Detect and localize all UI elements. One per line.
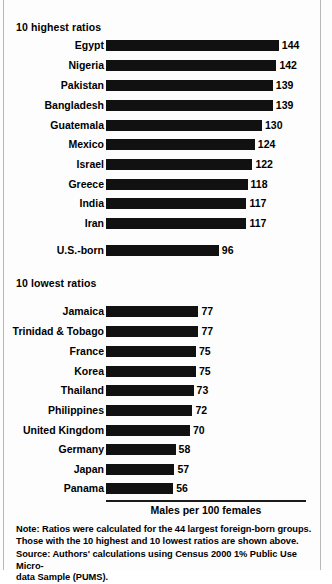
bar-value: 73 bbox=[197, 384, 209, 397]
x-axis-line bbox=[106, 500, 306, 502]
bar-label: France bbox=[70, 345, 104, 358]
bar-label: Jamaica bbox=[63, 305, 104, 318]
section-heading-highest: 10 highest ratios bbox=[16, 21, 101, 33]
bar-label: Panama bbox=[64, 482, 104, 495]
table-row: Nigeria 142 bbox=[0, 58, 332, 75]
bar-value: 144 bbox=[282, 39, 300, 52]
table-row: Philippines 72 bbox=[0, 403, 332, 420]
bar-mark bbox=[106, 80, 273, 91]
bar-value: 75 bbox=[199, 345, 211, 358]
bar-mark bbox=[106, 425, 190, 436]
bar-value: 118 bbox=[251, 178, 268, 191]
bar-mark bbox=[106, 179, 248, 190]
bar-mark bbox=[106, 483, 173, 494]
bar-mark bbox=[106, 40, 279, 51]
bar-value: 117 bbox=[249, 197, 266, 210]
table-row: Guatemala 130 bbox=[0, 118, 332, 135]
section-heading-lowest: 10 lowest ratios bbox=[16, 277, 96, 289]
bar-mark bbox=[106, 139, 255, 150]
table-row: Germany 58 bbox=[0, 442, 332, 459]
bar-value: 75 bbox=[199, 365, 211, 378]
chart-source-line-2: data Sample (PUMS). bbox=[16, 572, 312, 584]
bar-mark bbox=[106, 444, 176, 455]
bar-value: 57 bbox=[177, 463, 189, 476]
chart-note-line-2: Those with the 10 highest and 10 lowest … bbox=[16, 536, 312, 548]
bar-value: 124 bbox=[258, 138, 276, 151]
table-row: Japan 57 bbox=[0, 462, 332, 479]
bar-label: India bbox=[79, 197, 104, 210]
table-row: Panama 56 bbox=[0, 481, 332, 498]
table-row: France 75 bbox=[0, 344, 332, 361]
x-axis-label: Males per 100 females bbox=[106, 504, 306, 516]
bar-value: 130 bbox=[265, 119, 283, 132]
table-row: Mexico 124 bbox=[0, 137, 332, 154]
bar-value: 142 bbox=[279, 59, 297, 72]
table-row: United Kingdom 70 bbox=[0, 423, 332, 440]
bar-value: 77 bbox=[201, 325, 213, 338]
bar-label: Trinidad & Tobago bbox=[13, 325, 104, 338]
table-row: Egypt 144 bbox=[0, 38, 332, 55]
bar-label: Bangladesh bbox=[44, 99, 104, 112]
table-row: Greece 118 bbox=[0, 177, 332, 194]
bar-label: Nigeria bbox=[68, 59, 104, 72]
bar-mark bbox=[106, 159, 252, 170]
bar-mark bbox=[106, 120, 262, 131]
bar-label: U.S.-born bbox=[57, 244, 104, 257]
bar-mark bbox=[106, 346, 196, 357]
table-row: Trinidad & Tobago 77 bbox=[0, 324, 332, 341]
table-row: Thailand 73 bbox=[0, 383, 332, 400]
table-row: Korea 75 bbox=[0, 364, 332, 381]
bar-label: Egypt bbox=[75, 39, 104, 52]
chart-source-line-1: Source: Authors' calculations using Cens… bbox=[16, 549, 312, 572]
bar-mark bbox=[106, 306, 198, 317]
bar-label: Thailand bbox=[61, 384, 104, 397]
bar-label: United Kingdom bbox=[23, 424, 104, 437]
bar-mark bbox=[106, 245, 219, 256]
table-row-us-born: U.S.-born 96 bbox=[0, 243, 332, 260]
bar-label: Iran bbox=[85, 217, 104, 230]
bar-label: Greece bbox=[68, 178, 104, 191]
bar-mark bbox=[106, 198, 246, 209]
bar-mark bbox=[106, 366, 196, 377]
bar-value: 70 bbox=[193, 424, 205, 437]
bar-value: 58 bbox=[179, 443, 191, 456]
bar-mark bbox=[106, 326, 198, 337]
bar-value: 77 bbox=[201, 305, 213, 318]
bar-mark bbox=[106, 464, 174, 475]
chart-source: Source: Authors' calculations using Cens… bbox=[16, 549, 312, 584]
table-row: Jamaica 77 bbox=[0, 304, 332, 321]
bar-label: Japan bbox=[74, 463, 104, 476]
table-row: Pakistan 139 bbox=[0, 78, 332, 95]
bar-label: Pakistan bbox=[61, 79, 104, 92]
bar-value: 56 bbox=[176, 482, 188, 495]
bar-label: Philippines bbox=[48, 404, 104, 417]
bar-mark bbox=[106, 218, 246, 229]
bar-mark bbox=[106, 100, 273, 111]
bar-label: Mexico bbox=[68, 138, 104, 151]
table-row: Iran 117 bbox=[0, 216, 332, 233]
bar-mark bbox=[106, 405, 192, 416]
chart-note-line-1: Note: Ratios were calculated for the 44 … bbox=[16, 524, 312, 536]
bar-value: 96 bbox=[222, 244, 234, 257]
table-row: Israel 122 bbox=[0, 157, 332, 174]
chart-note: Note: Ratios were calculated for the 44 … bbox=[16, 524, 312, 547]
table-row: Bangladesh 139 bbox=[0, 98, 332, 115]
table-row: India 117 bbox=[0, 196, 332, 213]
bar-value: 139 bbox=[276, 79, 294, 92]
bar-label: Guatemala bbox=[50, 119, 104, 132]
bar-label: Germany bbox=[58, 443, 104, 456]
bar-mark bbox=[106, 60, 276, 71]
bar-value: 72 bbox=[195, 404, 207, 417]
bar-label: Israel bbox=[77, 158, 104, 171]
bar-value: 122 bbox=[255, 158, 273, 171]
bar-label: Korea bbox=[74, 365, 104, 378]
bar-mark bbox=[106, 385, 194, 396]
bar-value: 117 bbox=[249, 217, 266, 230]
bar-value: 139 bbox=[276, 99, 294, 112]
